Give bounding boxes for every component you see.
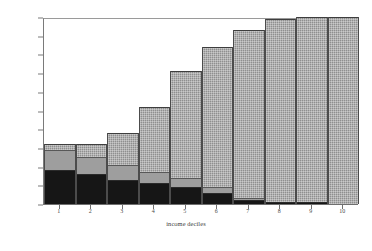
bar-segment-low-9 xyxy=(296,202,328,204)
bar-segment-mid-6 xyxy=(202,187,234,193)
bar-segment-high-10 xyxy=(328,17,360,204)
bar-segment-mid-7 xyxy=(233,198,265,200)
bar-decile-9[interactable] xyxy=(296,17,328,204)
x-tick-label-6: 6 xyxy=(215,208,218,214)
x-tick-label-7: 7 xyxy=(246,208,249,214)
bar-segment-high-8 xyxy=(265,19,297,202)
bar-segment-high-4 xyxy=(139,107,171,172)
y-axis: 0%10%20%30%40%50%60%70%80%90%100% xyxy=(0,0,43,251)
bar-decile-5[interactable] xyxy=(170,17,202,204)
bar-segment-low-8 xyxy=(265,202,297,204)
x-tick-label-1: 1 xyxy=(57,208,60,214)
bar-segment-low-2 xyxy=(76,174,108,204)
bar-decile-1[interactable] xyxy=(44,17,76,204)
bar-segment-low-4 xyxy=(139,183,171,204)
bar-segment-high-9 xyxy=(296,17,328,202)
bar-segment-low-7 xyxy=(233,200,265,204)
bar-segment-high-3 xyxy=(107,133,139,165)
x-tick-label-4: 4 xyxy=(152,208,155,214)
bar-decile-10[interactable] xyxy=(328,17,360,204)
bar-decile-4[interactable] xyxy=(139,17,171,204)
x-tick-label-9: 9 xyxy=(309,208,312,214)
bar-segment-mid-1 xyxy=(44,150,76,171)
x-tick-label-10: 10 xyxy=(339,208,345,214)
bar-segment-mid-5 xyxy=(170,178,202,187)
stacked-bar-chart: 0%10%20%30%40%50%60%70%80%90%100% 123456… xyxy=(0,0,372,251)
x-tick-label-2: 2 xyxy=(89,208,92,214)
bar-segment-mid-2 xyxy=(76,157,108,174)
bar-segment-low-1 xyxy=(44,170,76,204)
bar-decile-8[interactable] xyxy=(265,17,297,204)
bar-segment-low-5 xyxy=(170,187,202,204)
x-tick-label-8: 8 xyxy=(278,208,281,214)
bar-decile-3[interactable] xyxy=(107,17,139,204)
x-tick-label-5: 5 xyxy=(183,208,186,214)
bar-segment-high-6 xyxy=(202,47,234,187)
bar-segment-high-2 xyxy=(76,144,108,157)
bar-segment-high-7 xyxy=(233,30,265,198)
bar-segment-low-3 xyxy=(107,180,139,204)
bar-segment-high-5 xyxy=(170,71,202,178)
bar-segment-low-6 xyxy=(202,193,234,204)
bar-segment-mid-4 xyxy=(139,172,171,183)
bar-decile-7[interactable] xyxy=(233,17,265,204)
bar-decile-6[interactable] xyxy=(202,17,234,204)
x-axis-title: income deciles xyxy=(0,220,372,227)
x-tick-label-3: 3 xyxy=(120,208,123,214)
bar-segment-high-1 xyxy=(44,144,76,150)
bar-segment-mid-3 xyxy=(107,165,139,180)
bar-decile-2[interactable] xyxy=(76,17,108,204)
plot-area xyxy=(43,18,358,205)
